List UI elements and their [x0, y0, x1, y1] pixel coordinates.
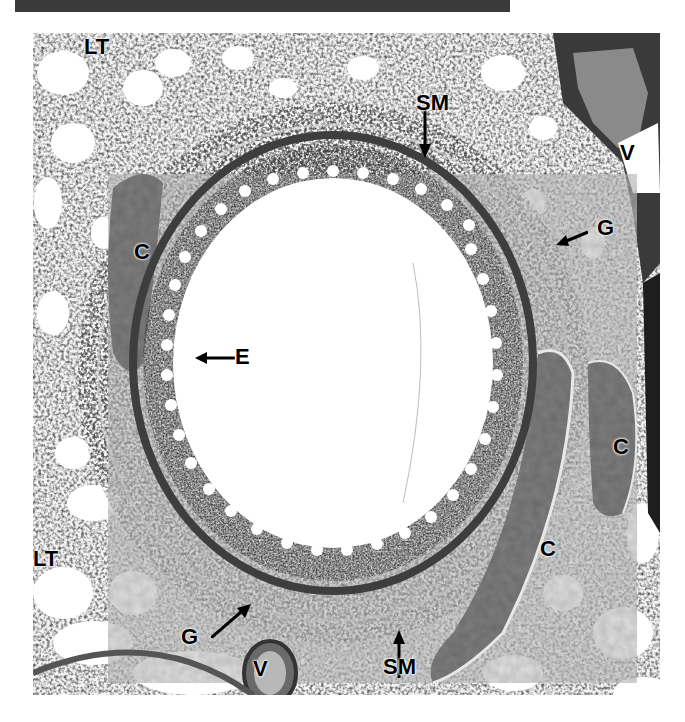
arrow-left-icon: [195, 351, 235, 365]
label-vessel-bottom: V: [253, 658, 268, 680]
arrow-down-icon: [418, 108, 432, 158]
label-vessel-right: V: [620, 142, 635, 164]
label-epithelium: E: [235, 346, 250, 368]
bronchus-micrograph: LT SM V G C E C C LT G V SM: [33, 33, 660, 695]
label-smooth-muscle-bottom: SM: [383, 656, 416, 678]
label-lung-tissue-left: LT: [33, 548, 58, 570]
label-cartilage-left: C: [134, 241, 150, 263]
micrograph-illustration: [33, 33, 660, 695]
label-cartilage-right-lower: C: [540, 538, 556, 560]
label-lung-tissue-top: LT: [84, 36, 109, 58]
label-gland-bottom: G: [181, 626, 198, 648]
arrow-up-right-icon: [211, 604, 251, 638]
label-cartilage-right-upper: C: [613, 436, 629, 458]
label-gland-right: G: [597, 217, 614, 239]
cropped-title-banner: [15, 0, 510, 12]
label-smooth-muscle-top: SM: [416, 92, 449, 114]
arrow-left-icon: [556, 229, 588, 247]
